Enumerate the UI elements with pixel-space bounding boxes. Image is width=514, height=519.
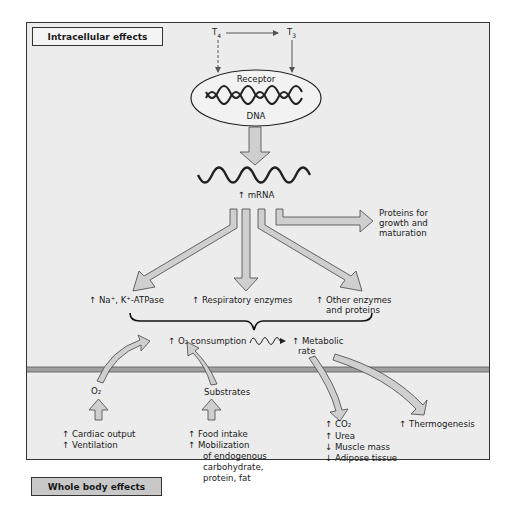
arrow-to-proteins bbox=[276, 209, 373, 232]
cardiac-output-label: ↑ Cardiac output bbox=[62, 429, 136, 440]
t4-label: T4 bbox=[212, 27, 221, 41]
carbohydrate-label: carbohydrate, bbox=[203, 462, 263, 473]
cardiac-up-arrow bbox=[89, 399, 108, 420]
o2-uptake-arrow bbox=[97, 335, 150, 383]
proteins-line-3: maturation bbox=[379, 228, 427, 239]
thermogenesis-label: ↑ Thermogenesis bbox=[399, 419, 475, 430]
receptor-label: Receptor bbox=[226, 74, 286, 85]
protein-fat-label: protein, fat bbox=[203, 473, 251, 484]
other-enzymes-line-2: and proteins bbox=[326, 305, 380, 316]
arrow-to-respiratory bbox=[234, 209, 258, 291]
dna-label: DNA bbox=[226, 111, 286, 122]
intracellular-effects-label: Intracellular effects bbox=[32, 27, 163, 46]
proteins-line-1: Proteins for bbox=[379, 208, 428, 219]
substrates-arrow bbox=[187, 342, 217, 385]
arrow-to-atpase bbox=[133, 209, 237, 291]
metabolic-rate-line-1: ↑ Metabolic bbox=[292, 336, 343, 347]
arrow-to-thermogenesis bbox=[333, 354, 427, 415]
o2-consumption-label: ↑ O₂ consumption bbox=[168, 336, 247, 347]
cell-membrane bbox=[27, 367, 489, 372]
co2-label: ↑ CO₂ bbox=[325, 419, 351, 430]
proteins-line-2: growth and bbox=[379, 218, 428, 229]
whole-body-effects-label: Whole body effects bbox=[31, 477, 162, 496]
arrow-to-co2 bbox=[309, 356, 348, 421]
wavy-arrow-icon bbox=[250, 338, 286, 345]
respiratory-enzymes-label: ↑ Respiratory enzymes bbox=[192, 295, 292, 306]
metabolic-rate-line-2: rate bbox=[298, 346, 315, 357]
urea-label: ↑ Urea bbox=[325, 431, 355, 442]
mrna-label: ↑ mRNA bbox=[226, 190, 286, 201]
other-enzymes-line-1: ↑ Other enzymes bbox=[316, 295, 392, 306]
food-intake-label: ↑ Food intake bbox=[188, 429, 248, 440]
transcription-arrow bbox=[240, 127, 270, 165]
food-up-arrow bbox=[202, 399, 221, 420]
adipose-tissue-label: ↓ Adipose tissue bbox=[325, 453, 397, 464]
o2-label: O₂ bbox=[91, 386, 101, 397]
endogenous-label: of endogenous bbox=[203, 451, 267, 462]
mrna-wave-icon bbox=[198, 168, 310, 183]
t3-label: T3 bbox=[287, 27, 296, 41]
ventilation-label: ↑ Ventilation bbox=[62, 440, 118, 451]
mobilization-label: ↑ Mobilization bbox=[188, 440, 249, 451]
atpase-label: ↑ Na⁺, K⁺-ATPase bbox=[89, 295, 164, 306]
muscle-mass-label: ↓ Muscle mass bbox=[325, 442, 390, 453]
substrates-label: Substrates bbox=[204, 387, 250, 398]
brace bbox=[130, 313, 372, 330]
